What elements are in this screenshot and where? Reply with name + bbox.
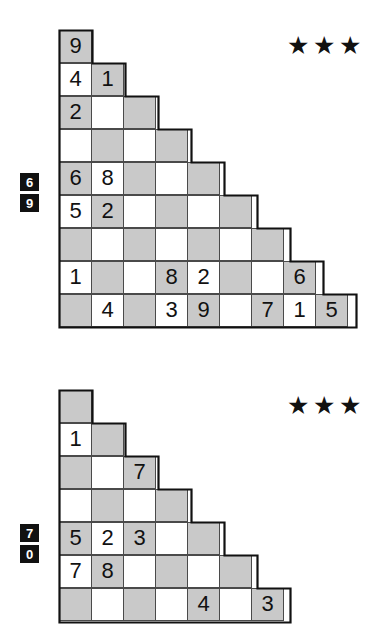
grid-cell[interactable] — [91, 588, 124, 621]
grid-cell[interactable] — [219, 195, 252, 228]
grid-cell[interactable]: 3 — [251, 588, 284, 621]
grid-cell[interactable] — [123, 228, 156, 261]
cell-value: 4 — [197, 593, 209, 615]
grid-cell[interactable]: 4 — [59, 63, 92, 96]
grid-cell[interactable] — [59, 456, 92, 489]
grid-cell[interactable] — [123, 294, 156, 327]
grid-cell[interactable] — [187, 195, 220, 228]
grid-cell[interactable] — [155, 129, 188, 162]
grid-cell[interactable]: 2 — [187, 261, 220, 294]
grid-cell[interactable] — [59, 228, 92, 261]
grid-cell[interactable] — [123, 588, 156, 621]
cell-value: 3 — [133, 527, 145, 549]
cell-value: 9 — [69, 35, 81, 57]
grid-row: 7 — [59, 456, 283, 489]
grid-cell[interactable] — [91, 456, 124, 489]
grid-cell[interactable] — [123, 162, 156, 195]
grid-cell[interactable] — [219, 588, 252, 621]
grid-cell[interactable] — [251, 228, 284, 261]
grid-cell[interactable]: 3 — [123, 522, 156, 555]
cell-value: 2 — [197, 266, 209, 288]
grid-cell[interactable] — [123, 555, 156, 588]
grid-cell[interactable] — [59, 129, 92, 162]
grid-cell[interactable]: 4 — [91, 294, 124, 327]
grid-cell[interactable] — [123, 96, 156, 129]
grid-cell[interactable] — [155, 489, 188, 522]
grid-cell[interactable]: 7 — [123, 456, 156, 489]
grid-cell[interactable] — [155, 555, 188, 588]
grid-cell[interactable] — [59, 489, 92, 522]
grid-cell[interactable]: 2 — [91, 195, 124, 228]
grid-cell[interactable] — [59, 294, 92, 327]
grid-cell[interactable]: 1 — [59, 261, 92, 294]
grid-cell[interactable] — [155, 522, 188, 555]
cell-value: 1 — [101, 68, 113, 90]
grid-cell[interactable]: 6 — [283, 261, 316, 294]
grid-cell[interactable]: 2 — [91, 522, 124, 555]
grid-cell[interactable] — [251, 261, 284, 294]
grid-cell[interactable] — [187, 522, 220, 555]
grid-cell[interactable] — [123, 261, 156, 294]
grid-cell[interactable] — [187, 555, 220, 588]
grid-cell[interactable] — [219, 294, 252, 327]
grid-cell[interactable] — [91, 129, 124, 162]
grid-cell[interactable]: 5 — [59, 195, 92, 228]
cell-value: 7 — [261, 299, 273, 321]
difficulty-stars-2: ★ ★ ★ — [287, 393, 361, 418]
grid-cell[interactable] — [91, 489, 124, 522]
clue-box: 6 — [20, 173, 39, 191]
grid-cell[interactable] — [219, 261, 252, 294]
grid-cell[interactable]: 6 — [59, 162, 92, 195]
grid-cell[interactable] — [91, 261, 124, 294]
grid-cell[interactable]: 8 — [91, 162, 124, 195]
grid-cell[interactable] — [91, 228, 124, 261]
grid-cell[interactable] — [123, 489, 156, 522]
grid-cell[interactable]: 9 — [187, 294, 220, 327]
grid-cell[interactable] — [155, 228, 188, 261]
grid-cell[interactable] — [155, 588, 188, 621]
grid-cell[interactable]: 8 — [91, 555, 124, 588]
clue-box: 7 — [20, 524, 39, 542]
grid-cell[interactable]: 4 — [187, 588, 220, 621]
grid-cell[interactable] — [59, 588, 92, 621]
puzzle-2: ★ ★ ★ 7 0 1 7 5 2 3 — [0, 360, 384, 635]
grid-cell[interactable] — [155, 195, 188, 228]
grid-cell[interactable] — [187, 162, 220, 195]
grid-cell[interactable]: 7 — [251, 294, 284, 327]
grid-cell[interactable] — [155, 162, 188, 195]
cell-value: 4 — [69, 68, 81, 90]
grid-row — [59, 228, 347, 261]
grid-cell[interactable]: 5 — [59, 522, 92, 555]
cell-value: 6 — [293, 266, 305, 288]
grid-cell[interactable]: 1 — [91, 63, 124, 96]
grid-cell[interactable]: 7 — [59, 555, 92, 588]
grid-cell[interactable] — [123, 129, 156, 162]
grid-cell[interactable] — [187, 228, 220, 261]
clue-stack-2: 7 0 — [20, 524, 39, 563]
grid-row: 5 2 3 — [59, 522, 283, 555]
grid-row — [59, 129, 347, 162]
grid-cell[interactable] — [91, 96, 124, 129]
grid-cell[interactable] — [123, 195, 156, 228]
star-icon: ★ — [287, 393, 309, 418]
grid-cell[interactable]: 5 — [315, 294, 348, 327]
cell-value: 5 — [325, 299, 337, 321]
grid-cell[interactable]: 3 — [155, 294, 188, 327]
grid-cell[interactable] — [91, 423, 124, 456]
cell-value: 1 — [69, 266, 81, 288]
cell-value: 8 — [101, 167, 113, 189]
grid-cell[interactable]: 1 — [283, 294, 316, 327]
cell-value: 7 — [69, 560, 81, 582]
cell-value: 1 — [69, 428, 81, 450]
star-icon: ★ — [313, 393, 335, 418]
grid-cell[interactable]: 2 — [59, 96, 92, 129]
cell-value: 5 — [69, 200, 81, 222]
grid-cell[interactable] — [219, 228, 252, 261]
grid-cell[interactable] — [59, 390, 92, 423]
grid-cell[interactable]: 1 — [59, 423, 92, 456]
grid-cell[interactable]: 8 — [155, 261, 188, 294]
cell-value: 3 — [261, 593, 273, 615]
grid-cell[interactable] — [219, 555, 252, 588]
grid-cell[interactable]: 9 — [59, 30, 92, 63]
grid-row: 5 2 — [59, 195, 347, 228]
